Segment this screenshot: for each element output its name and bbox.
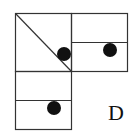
diagonal-line xyxy=(16,14,72,72)
dot-bottom-left xyxy=(47,101,61,115)
dot-top-right xyxy=(103,43,117,57)
option-label: D xyxy=(108,102,124,124)
dot-top-left xyxy=(57,47,71,61)
